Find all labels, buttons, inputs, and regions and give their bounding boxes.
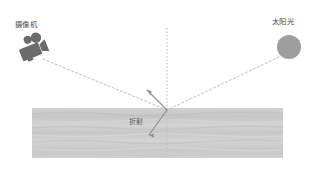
- water-surface-band: [32, 108, 283, 158]
- sun-label: 太阳光: [272, 18, 294, 26]
- sun-circle-icon: [277, 35, 301, 59]
- diagram-canvas: 摄像机 太阳光 折射: [0, 0, 317, 179]
- reflected-ray: [43, 59, 167, 110]
- reflection-arrow: [147, 90, 167, 110]
- camcorder-icon: [15, 32, 51, 64]
- camera-label: 摄像机: [15, 21, 37, 29]
- optics-diagram: [0, 0, 317, 179]
- incident-ray: [167, 57, 279, 110]
- refraction-label: 折射: [129, 119, 144, 126]
